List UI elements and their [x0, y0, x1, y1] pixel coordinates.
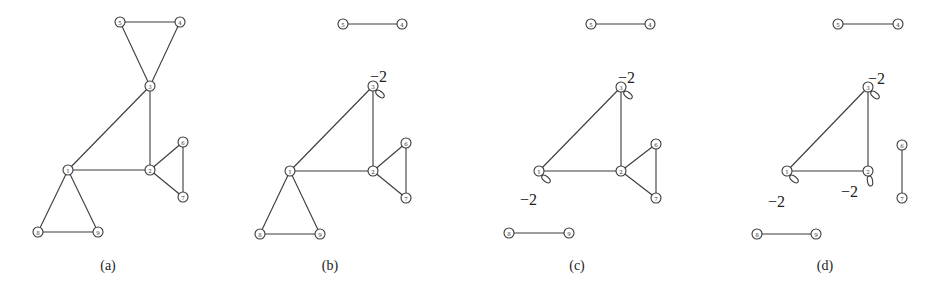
node-label: 4 — [648, 22, 652, 28]
graph-node-7: 7 — [897, 193, 907, 203]
edge-1-9 — [290, 171, 320, 234]
graph-node-6: 6 — [178, 137, 188, 147]
graph-node-1: 1 — [63, 165, 73, 175]
panel-caption: (c) — [569, 258, 585, 274]
panel-b: −2543612789(b) — [255, 19, 411, 274]
graph-node-4: 4 — [645, 19, 655, 29]
graph-node-4: 4 — [893, 19, 903, 29]
graph-node-6: 6 — [401, 138, 411, 148]
node-label: 2 — [619, 169, 623, 175]
loop-weight-label: −2 — [520, 191, 537, 208]
graph-node-3: 3 — [863, 82, 873, 92]
node-label: 3 — [371, 84, 375, 90]
graph-node-1: 1 — [782, 166, 792, 176]
graph-node-2: 2 — [145, 165, 155, 175]
panel-caption: (b) — [322, 258, 339, 274]
node-label: 7 — [181, 195, 185, 201]
node-label: 7 — [900, 196, 904, 202]
node-label: 8 — [36, 230, 40, 236]
node-label: 5 — [341, 22, 345, 28]
self-loop-2 — [867, 176, 874, 187]
edge-2-7 — [621, 171, 656, 198]
edge-1-9 — [68, 170, 98, 232]
graph-node-6: 6 — [897, 140, 907, 150]
edge-1-8 — [260, 171, 290, 234]
node-label: 5 — [836, 22, 840, 28]
graph-node-3: 3 — [616, 82, 626, 92]
edge-3-1 — [787, 87, 868, 171]
node-label: 9 — [567, 231, 571, 237]
edge-2-7 — [373, 171, 406, 198]
graph-node-2: 2 — [368, 166, 378, 176]
edge-2-6 — [150, 142, 183, 170]
node-label: 9 — [814, 232, 818, 238]
node-label: 8 — [755, 232, 759, 238]
graph-node-8: 8 — [33, 227, 43, 237]
graph-node-8: 8 — [255, 229, 265, 239]
graph-node-7: 7 — [178, 192, 188, 202]
graph-node-9: 9 — [93, 227, 103, 237]
node-label: 4 — [400, 22, 404, 28]
node-label: 3 — [866, 85, 870, 91]
panel-caption: (a) — [100, 258, 116, 274]
graph-node-8: 8 — [504, 228, 514, 238]
graph-node-2: 2 — [616, 166, 626, 176]
graph-node-3: 3 — [368, 81, 378, 91]
node-label: 1 — [785, 169, 789, 175]
edge-5-3 — [120, 22, 150, 86]
graph-node-5: 5 — [338, 19, 348, 29]
edge-2-6 — [621, 144, 656, 171]
node-label: 3 — [619, 85, 623, 91]
edge-2-6 — [373, 143, 406, 171]
node-label: 6 — [900, 143, 904, 149]
graph-node-9: 9 — [811, 229, 821, 239]
edge-4-3 — [150, 22, 180, 86]
node-label: 1 — [66, 168, 70, 174]
node-label: 3 — [148, 84, 152, 90]
graph-node-5: 5 — [115, 17, 125, 27]
panel-d: −2−2−2543612789(d) — [752, 19, 907, 274]
node-label: 2 — [866, 169, 870, 175]
graph-node-2: 2 — [863, 166, 873, 176]
loop-weight-label: −2 — [768, 193, 785, 210]
graph-node-6: 6 — [651, 139, 661, 149]
node-label: 7 — [654, 196, 658, 202]
node-label: 1 — [537, 169, 541, 175]
graph-node-4: 4 — [397, 19, 407, 29]
graph-figure: 543612789(a)−2543612789(b)−2−2543612789(… — [0, 0, 947, 293]
edge-3-1 — [290, 86, 373, 171]
node-label: 8 — [507, 231, 511, 237]
edge-2-7 — [150, 170, 183, 197]
graph-node-7: 7 — [651, 193, 661, 203]
node-label: 2 — [148, 168, 152, 174]
graph-node-4: 4 — [175, 17, 185, 27]
node-label: 2 — [371, 169, 375, 175]
node-label: 4 — [178, 20, 182, 26]
graph-node-9: 9 — [564, 228, 574, 238]
graph-node-5: 5 — [833, 19, 843, 29]
panel-caption: (d) — [817, 258, 834, 274]
node-label: 8 — [258, 232, 262, 238]
node-label: 6 — [404, 141, 408, 147]
loop-weight-label: −2 — [841, 183, 858, 200]
node-label: 5 — [118, 20, 122, 26]
node-label: 9 — [96, 230, 100, 236]
node-label: 4 — [896, 22, 900, 28]
node-label: 1 — [288, 169, 292, 175]
node-label: 9 — [318, 232, 322, 238]
node-label: 6 — [181, 140, 185, 146]
graph-node-5: 5 — [586, 19, 596, 29]
graph-node-8: 8 — [752, 229, 762, 239]
graph-node-9: 9 — [315, 229, 325, 239]
node-label: 5 — [589, 22, 593, 28]
edge-3-1 — [539, 87, 621, 171]
graph-node-3: 3 — [145, 81, 155, 91]
edge-3-1 — [68, 86, 150, 170]
graph-node-1: 1 — [285, 166, 295, 176]
graph-node-7: 7 — [401, 193, 411, 203]
panel-a: 543612789(a) — [33, 17, 188, 274]
node-label: 6 — [654, 142, 658, 148]
node-label: 7 — [404, 196, 408, 202]
graph-node-1: 1 — [534, 166, 544, 176]
panel-c: −2−2543612789(c) — [504, 19, 661, 274]
